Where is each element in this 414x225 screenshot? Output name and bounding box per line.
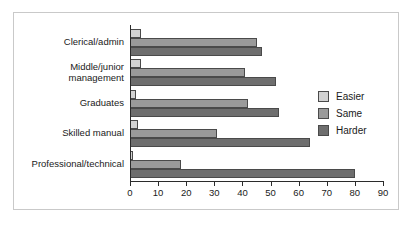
bar: [130, 169, 355, 178]
x-axis-tick-label: 20: [174, 187, 198, 198]
bar: [130, 38, 257, 47]
legend-swatch-easier: [318, 91, 329, 102]
legend-swatch-harder: [318, 125, 329, 136]
legend-swatch-same: [318, 108, 329, 119]
x-axis-line: [130, 181, 384, 182]
bar: [130, 129, 217, 138]
category-label: Graduates: [12, 97, 124, 108]
legend-label-harder: Harder: [336, 125, 367, 136]
x-axis-tick: [383, 182, 384, 186]
bar: [130, 120, 138, 129]
x-axis-tick: [214, 182, 215, 186]
bar: [130, 160, 181, 169]
y-axis-line: [130, 25, 131, 181]
x-axis-tick: [158, 182, 159, 186]
x-axis-tick: [130, 182, 131, 186]
chart-figure: Clerical/adminMiddle/junior managementGr…: [0, 0, 414, 225]
bar: [130, 47, 262, 56]
category-label: Skilled manual: [12, 127, 124, 138]
bar: [130, 138, 310, 147]
category-label: Clerical/admin: [12, 36, 124, 47]
x-axis-tick-label: 80: [343, 187, 367, 198]
legend-item-same: Same: [318, 105, 396, 122]
x-axis-tick-label: 70: [315, 187, 339, 198]
bar: [130, 59, 141, 68]
legend-item-easier: Easier: [318, 88, 396, 105]
legend-item-harder: Harder: [318, 122, 396, 139]
bar: [130, 68, 245, 77]
x-axis-tick-label: 40: [230, 187, 254, 198]
legend-label-easier: Easier: [336, 91, 364, 102]
x-axis-tick-label: 50: [259, 187, 283, 198]
category-label: Professional/technical: [12, 158, 124, 169]
x-axis-tick: [242, 182, 243, 186]
x-axis-tick-label: 60: [287, 187, 311, 198]
x-axis-tick: [271, 182, 272, 186]
bar: [130, 77, 276, 86]
bar: [130, 99, 248, 108]
chart-legend: Easier Same Harder: [318, 88, 396, 139]
bar: [130, 29, 141, 38]
x-axis-tick: [327, 182, 328, 186]
x-axis-tick: [299, 182, 300, 186]
x-axis-tick-label: 0: [118, 187, 142, 198]
legend-label-same: Same: [336, 108, 362, 119]
x-axis-tick: [186, 182, 187, 186]
x-axis-tick-label: 90: [371, 187, 395, 198]
x-axis-tick: [355, 182, 356, 186]
x-axis-tick-label: 10: [146, 187, 170, 198]
bar: [130, 108, 279, 117]
category-label: Middle/junior management: [12, 61, 124, 83]
x-axis-tick-label: 30: [202, 187, 226, 198]
